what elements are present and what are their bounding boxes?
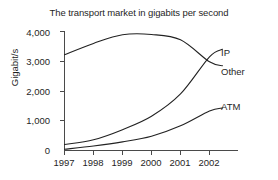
series-label-atm: ATM	[221, 101, 240, 112]
series-line-atm	[65, 108, 223, 149]
line-chart: The transport market in gigabits per sec…	[0, 0, 278, 180]
plot-area	[0, 0, 278, 180]
series-line-other	[65, 34, 223, 66]
series-label-other: Other	[221, 66, 245, 77]
series-label-ip: IP	[221, 47, 230, 58]
series-line-ip	[65, 49, 223, 144]
